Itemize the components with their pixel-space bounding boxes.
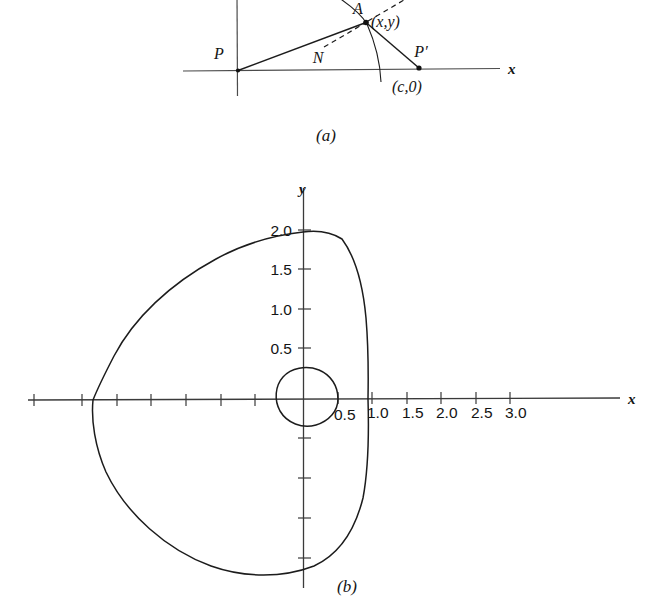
point-P-dot [236,68,240,72]
panel-a: P N A P′ (x,y) (c,0) x (a) [183,0,516,145]
panel-b-x-axis-label: x [627,391,636,407]
panel-a-caption: (a) [316,126,336,145]
dashed-normal-left [324,23,366,48]
x-tick-label-1.5: 1.5 [402,404,424,421]
x-tick-label-1.0: 1.0 [367,404,389,421]
point-A-label: A [352,0,363,17]
outer-oval-curve [93,231,369,575]
panel-a-x-axis-label: x [507,61,516,77]
point-A-coords: (x,y) [371,13,400,31]
panel-b: 0.5 1.0 1.5 2.0 2.5 3.0 0.5 1.0 1.5 2.0 … [28,181,636,596]
point-Pprime-coords: (c,0) [392,78,422,96]
panel-b-caption: (b) [337,577,357,596]
panel-b-y-ticks [298,230,311,558]
x-tick-label-2.0: 2.0 [436,404,458,421]
inner-loop-curve [276,368,338,427]
y-tick-label-1.5: 1.5 [270,261,292,278]
x-tick-label-0.5: 0.5 [334,406,356,423]
panel-b-y-axis-label: y [297,181,306,197]
point-A-dot [363,20,369,26]
cartesian-oval-figure: P N A P′ (x,y) (c,0) x (a) [0,0,652,598]
panel-a-x-axis [183,69,500,72]
y-tick-label-0.5: 0.5 [270,340,292,357]
point-N-label: N [312,49,325,66]
x-tick-label-2.5: 2.5 [471,404,493,421]
figure-root: P N A P′ (x,y) (c,0) x (a) [0,0,652,598]
point-P-label: P [213,45,224,62]
point-Pprime-dot [416,65,421,70]
x-tick-label-3.0: 3.0 [505,404,527,421]
panel-a-y-axis [237,0,238,96]
y-tick-label-1.0: 1.0 [270,301,292,318]
segment-P-A [238,23,366,71]
point-Pprime-label: P′ [413,43,428,60]
